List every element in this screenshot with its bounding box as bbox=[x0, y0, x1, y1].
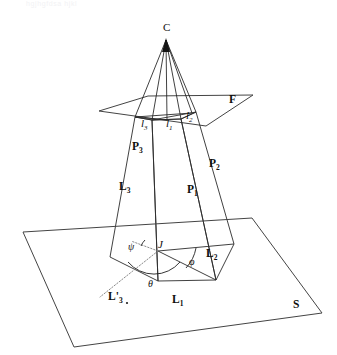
label-focal-plane-F: F bbox=[229, 93, 236, 105]
perspective-geometry-diagram: C F S l3 l1 l2 P3 P2 P1 bbox=[0, 0, 337, 355]
apex-marker bbox=[162, 38, 170, 52]
ray-c-to-l2-right bbox=[166, 40, 196, 112]
label-scene-plane-S: S bbox=[293, 298, 299, 310]
camera-ray-bundle bbox=[135, 38, 196, 120]
label-plane-P2: P2 bbox=[209, 157, 220, 172]
label-scene-line-L3: L3 bbox=[119, 180, 131, 195]
label-scene-line-L3-prime: L'3 bbox=[108, 290, 123, 305]
label-plane-P1: P1 bbox=[187, 183, 198, 198]
figure-root: hgjhgfdsa hjkl bbox=[0, 0, 337, 355]
scene-plane-quad bbox=[23, 218, 322, 347]
ray-c-to-l3-left bbox=[135, 40, 166, 117]
label-scene-line-L1: L1 bbox=[172, 293, 184, 308]
faint-top-caption: hgjhgfdsa hjkl bbox=[26, 0, 77, 7]
psi-reference-ray bbox=[131, 241, 158, 251]
label-camera-center-C: C bbox=[163, 21, 170, 33]
diagram-labels: C F S l3 l1 l2 P3 P2 P1 bbox=[108, 21, 299, 310]
angle-arc-theta bbox=[128, 262, 180, 274]
L3-prime-dot bbox=[126, 302, 128, 304]
label-angle-phi: φ bbox=[189, 256, 195, 267]
scene-plane-S bbox=[23, 218, 322, 347]
label-image-line-l2: l2 bbox=[186, 109, 193, 124]
label-plane-P3: P3 bbox=[132, 140, 143, 155]
label-angle-theta: θ bbox=[148, 278, 153, 289]
label-junction-J: J bbox=[158, 238, 164, 250]
ray-c-to-l2-left bbox=[166, 40, 192, 113]
label-angle-psi: ψ bbox=[128, 241, 135, 252]
